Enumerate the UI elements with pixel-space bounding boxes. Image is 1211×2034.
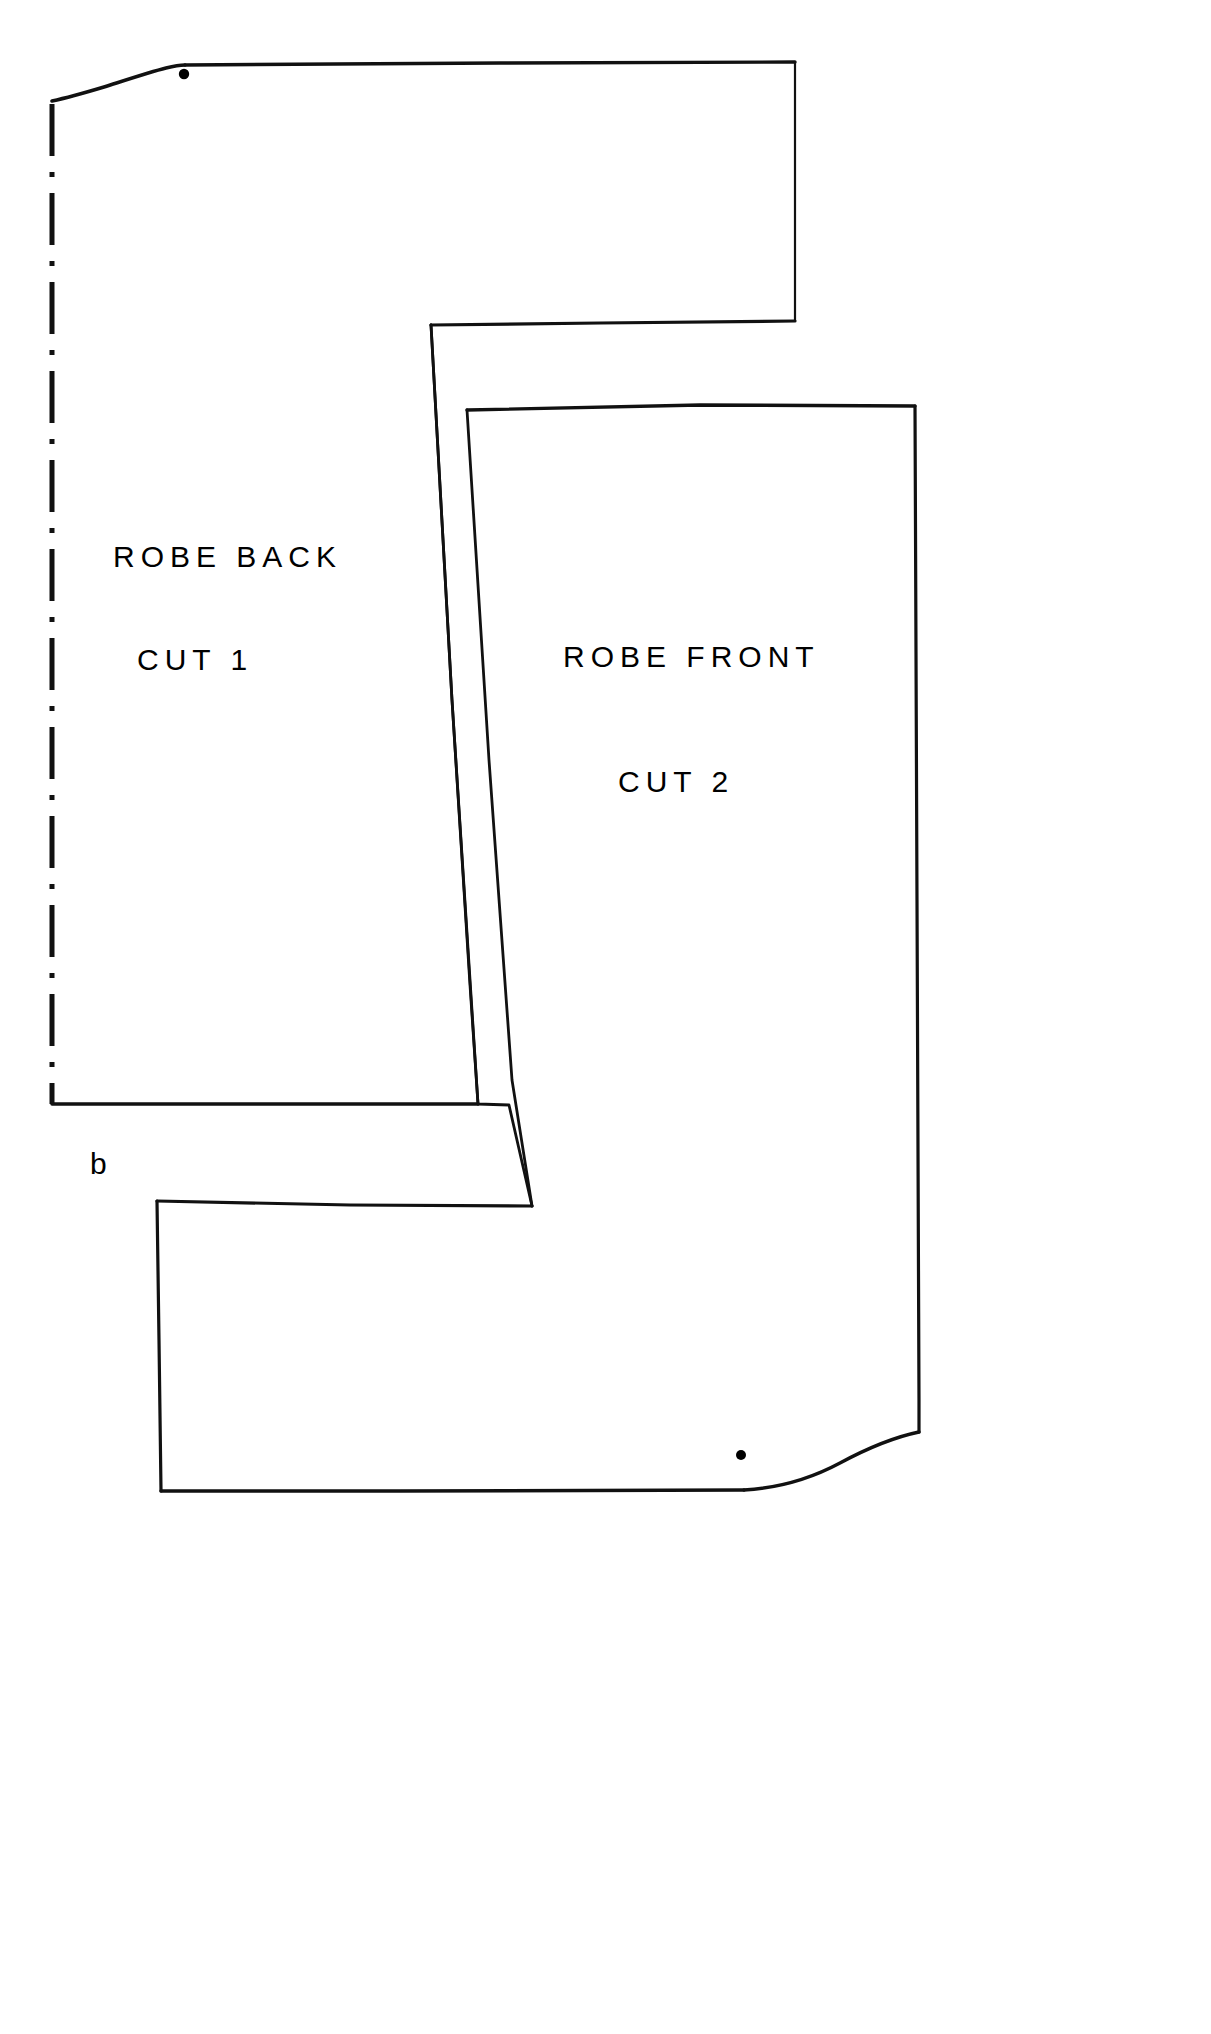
robe-front-hem-curve bbox=[744, 1432, 919, 1490]
robe-back-neckline-curve bbox=[52, 65, 185, 101]
figure-letter-label: b bbox=[90, 1147, 107, 1181]
robe-back-underarm-edge bbox=[431, 321, 795, 325]
robe-back-piece bbox=[52, 62, 795, 1104]
robe-front-top-edge bbox=[467, 405, 915, 410]
robe-front-bottom-edge bbox=[161, 1490, 744, 1491]
robe-front-notch-dot bbox=[736, 1450, 746, 1460]
robe-front-right-edge bbox=[915, 406, 919, 1432]
robe-front-step-edge bbox=[157, 1201, 532, 1206]
robe-front-left-seam bbox=[431, 325, 532, 1206]
robe-back-notch-dot bbox=[179, 69, 189, 79]
pattern-drawing bbox=[0, 0, 1211, 2034]
robe-back-top-edge bbox=[185, 62, 795, 65]
robe-front-label: ROBE FRONT bbox=[563, 640, 820, 674]
robe-front-piece bbox=[157, 325, 919, 1491]
robe-back-cut-label: CUT 1 bbox=[137, 643, 253, 677]
robe-back-label: ROBE BACK bbox=[113, 540, 342, 574]
pattern-page: ROBE BACK CUT 1 ROBE FRONT CUT 2 b bbox=[0, 0, 1211, 2034]
robe-front-lower-left-edge bbox=[157, 1201, 161, 1491]
robe-front-cut-label: CUT 2 bbox=[618, 765, 734, 799]
